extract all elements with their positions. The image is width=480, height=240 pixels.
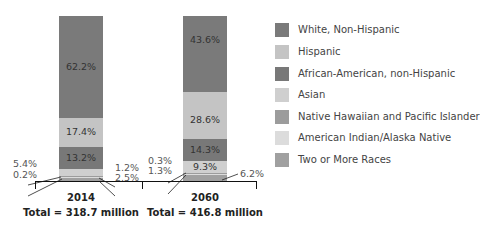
category-label-2060: 2060 [140, 192, 270, 203]
label-multi-2060: 6.2% [240, 168, 264, 179]
x-axis [35, 181, 257, 182]
label-aian-2060: 1.3% [148, 165, 172, 176]
legend-label: American Indian/Alaska Native [298, 132, 451, 143]
legend-label: African-American, non-Hispanic [298, 68, 455, 79]
legend-label: Asian [298, 89, 325, 100]
legend-label: Two or More Races [298, 154, 391, 165]
x-axis-tick [142, 181, 143, 189]
x-axis-tick [35, 181, 36, 189]
category-total-2060: Total = 416.8 million [135, 207, 275, 218]
legend-label: Hispanic [298, 46, 341, 57]
x-axis-tick [256, 181, 257, 189]
legend-label: White, Non-Hispanic [298, 24, 400, 35]
legend-swatch-nhpi [275, 110, 289, 124]
label-nhpi-2014: 0.2% [13, 169, 37, 180]
label-asian-2014: 5.4% [13, 158, 37, 169]
legend-swatch-hispanic [275, 45, 289, 59]
legend-swatch-black [275, 67, 289, 81]
legend-swatch-white [275, 23, 289, 37]
category-total-2014: Total = 318.7 million [11, 207, 151, 218]
legend-label: Native Hawaiian and Pacific Islander [298, 111, 480, 122]
legend-swatch-multi [275, 153, 289, 167]
legend-swatch-aian [275, 131, 289, 145]
legend-swatch-asian [275, 88, 289, 102]
category-label-2014: 2014 [16, 192, 146, 203]
